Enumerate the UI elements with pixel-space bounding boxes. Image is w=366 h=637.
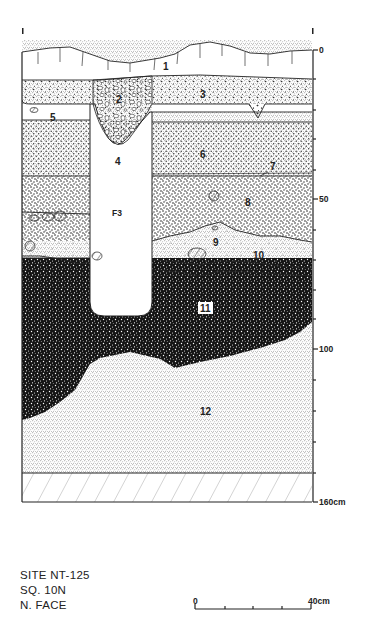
- label-layer-7: 7: [270, 161, 276, 172]
- layer-6: [22, 120, 312, 176]
- depth-label-50: 50: [319, 194, 329, 204]
- caption-site: SITE NT-125: [20, 569, 90, 581]
- stone: [42, 213, 54, 221]
- datum-marker-right: [312, 28, 314, 34]
- label-feature-f3: F3: [112, 208, 122, 218]
- scale-start-label: 0: [193, 596, 198, 606]
- label-layer-1: 1: [163, 61, 169, 72]
- label-layer-2: 2: [116, 94, 122, 105]
- stone: [209, 191, 219, 201]
- stone: [212, 226, 218, 230]
- caption-square: SQ. 10N: [20, 584, 66, 596]
- datum-marker-left: [22, 28, 24, 34]
- scale-bar: [195, 604, 311, 609]
- stone: [92, 252, 102, 260]
- label-layer-12: 12: [200, 406, 212, 417]
- stone: [25, 241, 35, 251]
- stone: [30, 108, 38, 113]
- stone: [29, 215, 39, 221]
- caption-face: N. FACE: [20, 599, 67, 611]
- label-layer-10: 10: [253, 250, 265, 261]
- layer-band: [152, 112, 312, 122]
- label-layer-5: 5: [50, 112, 56, 123]
- scale-end-label: 40cm: [308, 596, 330, 606]
- stone: [54, 211, 66, 221]
- label-layer-6: 6: [200, 149, 206, 160]
- label-layer-3: 3: [200, 89, 206, 100]
- label-layer-11: 11: [200, 303, 211, 314]
- depth-label-100: 100: [319, 344, 333, 354]
- depth-axis: [313, 50, 318, 502]
- stone: [188, 248, 206, 260]
- stratigraphic-profile: 0 50 100 160cm 1 2 3 4 5 6 7 8 9 10 11 1…: [0, 0, 366, 637]
- depth-label-160: 160cm: [319, 497, 346, 507]
- depth-label-0: 0: [319, 45, 324, 55]
- label-layer-4: 4: [115, 156, 121, 167]
- label-layer-8: 8: [245, 197, 251, 208]
- label-layer-9: 9: [213, 237, 219, 248]
